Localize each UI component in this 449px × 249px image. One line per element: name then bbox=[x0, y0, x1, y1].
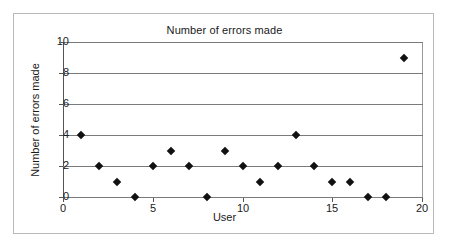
y-tick-label-4: 4 bbox=[43, 128, 69, 140]
x-axis-title: User bbox=[14, 211, 435, 223]
data-point bbox=[382, 193, 390, 201]
data-point bbox=[400, 53, 408, 61]
y-tick-label-2: 2 bbox=[43, 159, 69, 171]
data-point bbox=[131, 193, 139, 201]
gridline-y-6 bbox=[63, 104, 423, 105]
data-point bbox=[149, 162, 157, 170]
y-tick-mark-10 bbox=[59, 42, 63, 43]
x-tick-mark-5 bbox=[153, 198, 154, 202]
x-tick-mark-15 bbox=[332, 198, 333, 202]
x-tick-label-5: 5 bbox=[141, 202, 165, 214]
data-point bbox=[166, 146, 174, 154]
y-tick-mark-6 bbox=[59, 104, 63, 105]
y-tick-label-8: 8 bbox=[43, 66, 69, 78]
x-tick-mark-0 bbox=[63, 198, 64, 202]
data-point bbox=[238, 162, 246, 170]
data-point bbox=[95, 162, 103, 170]
gridline-y-8 bbox=[63, 73, 423, 74]
data-point bbox=[328, 177, 336, 185]
y-tick-mark-4 bbox=[59, 135, 63, 136]
x-tick-label-10: 10 bbox=[231, 202, 255, 214]
x-tick-mark-20 bbox=[422, 198, 423, 202]
x-tick-label-0: 0 bbox=[51, 202, 75, 214]
data-point bbox=[77, 131, 85, 139]
data-point bbox=[364, 193, 372, 201]
y-tick-mark-2 bbox=[59, 166, 63, 167]
data-point bbox=[292, 131, 300, 139]
plot-right-border bbox=[422, 42, 423, 198]
chart-container: Number of errors made Number of errors m… bbox=[13, 13, 434, 234]
data-point bbox=[256, 177, 264, 185]
data-point bbox=[184, 162, 192, 170]
gridline-y-4 bbox=[63, 135, 423, 136]
y-tick-label-10: 10 bbox=[43, 35, 69, 47]
data-point bbox=[346, 177, 354, 185]
y-tick-label-0: 0 bbox=[43, 190, 69, 202]
x-tick-label-20: 20 bbox=[410, 202, 434, 214]
data-point bbox=[202, 193, 210, 201]
chart-title: Number of errors made bbox=[14, 24, 435, 36]
x-tick-mark-10 bbox=[243, 198, 244, 202]
plot-area: 0246810 05101520 bbox=[63, 42, 423, 197]
y-tick-label-6: 6 bbox=[43, 97, 69, 109]
y-tick-mark-8 bbox=[59, 73, 63, 74]
data-point bbox=[220, 146, 228, 154]
gridline-y-10 bbox=[63, 42, 423, 43]
data-point bbox=[310, 162, 318, 170]
x-tick-label-15: 15 bbox=[320, 202, 344, 214]
data-point bbox=[113, 177, 121, 185]
data-point bbox=[274, 162, 282, 170]
y-axis-title: Number of errors made bbox=[29, 55, 41, 185]
